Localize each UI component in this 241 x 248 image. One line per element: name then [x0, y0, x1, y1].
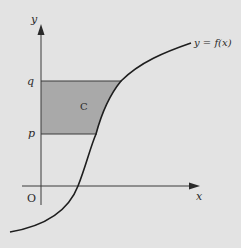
x-axis-arrow-icon: [189, 183, 200, 190]
figure: y q p C O x y = f(x): [0, 0, 241, 248]
origin-label: O: [27, 193, 36, 204]
q-label: q: [27, 76, 34, 87]
y-axis-label: y: [31, 14, 37, 25]
curve-f: [10, 43, 191, 232]
p-label: p: [28, 128, 35, 139]
x-axis-label: x: [196, 191, 202, 202]
y-axis-arrow-icon: [38, 24, 45, 35]
region-c-label: C: [80, 102, 88, 112]
curve-label: y = f(x): [194, 38, 232, 48]
